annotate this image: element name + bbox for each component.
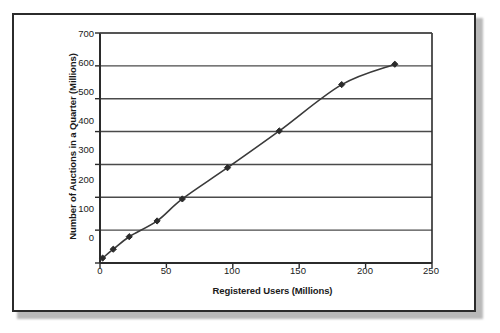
y-tick-label: 500	[60, 86, 94, 97]
y-tick-label: 200	[60, 174, 94, 185]
x-axis-title: Registered Users (Millions)	[100, 285, 445, 296]
x-tick-label: 100	[212, 265, 252, 276]
line-chart: Number of Auctions in a Quarter (Million…	[12, 13, 476, 312]
y-tick-label: 100	[60, 203, 94, 214]
gridlines	[100, 33, 432, 230]
x-tick-label: 200	[345, 265, 385, 276]
x-tick-label: 0	[80, 265, 120, 276]
x-tick-label: 50	[146, 265, 186, 276]
y-tick-label: 600	[60, 57, 94, 68]
data-series	[100, 61, 398, 261]
y-tick-label: 700	[60, 28, 94, 39]
x-tick-label: 150	[278, 265, 318, 276]
y-tick-label: 0	[60, 232, 94, 243]
y-tick-label: 300	[60, 144, 94, 155]
figure-root: Number of Auctions in a Quarter (Million…	[0, 0, 500, 333]
y-tick-label: 400	[60, 115, 94, 126]
x-tick-label: 250	[411, 265, 451, 276]
